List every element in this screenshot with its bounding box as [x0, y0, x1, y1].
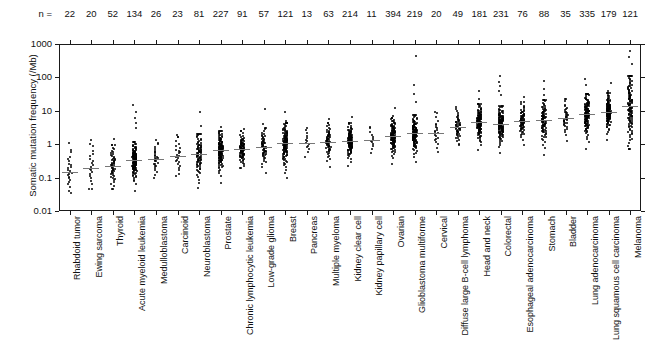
x-axis-category-label: Diffuse large B-cell lymphoma — [461, 216, 470, 335]
data-point — [480, 111, 482, 113]
median-marker — [385, 136, 401, 137]
data-point — [70, 192, 72, 194]
data-point — [610, 121, 612, 123]
x-axis-tick-top — [70, 40, 71, 44]
data-point — [285, 160, 287, 162]
data-point — [197, 176, 199, 178]
data-point — [455, 106, 457, 108]
data-point — [263, 133, 265, 135]
data-point — [68, 173, 70, 175]
data-point — [92, 150, 94, 152]
data-point — [134, 117, 136, 119]
median-marker — [83, 168, 99, 169]
data-point — [328, 130, 330, 132]
x-axis-tick — [285, 211, 286, 215]
data-point — [198, 182, 200, 184]
data-point — [627, 145, 629, 147]
data-point — [91, 183, 93, 185]
x-axis-tick — [372, 211, 373, 215]
data-point — [630, 125, 632, 127]
data-point — [394, 149, 396, 151]
data-point — [459, 135, 461, 137]
y-axis-tick-label: 1 — [47, 139, 52, 148]
data-point — [586, 136, 588, 138]
data-point — [415, 161, 417, 163]
data-point — [157, 142, 159, 144]
data-point — [564, 104, 566, 106]
data-point — [113, 148, 115, 150]
median-marker — [126, 160, 142, 161]
x-axis-tick — [436, 211, 437, 215]
data-point — [586, 138, 588, 140]
data-point — [631, 90, 633, 92]
data-point — [628, 142, 630, 144]
data-point — [437, 143, 439, 145]
median-marker — [148, 159, 164, 160]
data-point — [455, 121, 457, 123]
x-axis-category-label: Pancreas — [310, 216, 319, 254]
data-point — [455, 137, 457, 139]
n-equals-label: n = — [39, 8, 52, 19]
data-point — [393, 119, 395, 121]
data-point — [434, 111, 436, 113]
data-point — [350, 158, 352, 160]
x-axis-tick — [393, 211, 394, 215]
data-point — [394, 107, 396, 109]
y-axis-tick-right — [641, 44, 645, 45]
data-point — [175, 149, 177, 151]
data-point — [501, 133, 503, 135]
y-axis-tick-right — [641, 178, 645, 179]
data-point — [197, 138, 199, 140]
x-axis-tick-top — [522, 40, 523, 44]
y-axis-tick-label: 100 — [36, 72, 52, 81]
x-axis-category-label: Glioblastoma multiforme — [418, 216, 427, 313]
data-point — [544, 147, 546, 149]
data-point — [415, 101, 417, 103]
data-point — [609, 92, 611, 94]
data-point — [370, 152, 372, 154]
data-point — [413, 156, 415, 158]
data-point — [200, 142, 202, 144]
data-point — [369, 127, 371, 129]
data-point — [221, 135, 223, 137]
y-axis-tick-right — [641, 77, 645, 78]
x-axis-tick-top — [630, 40, 631, 44]
data-point — [69, 156, 71, 158]
data-point — [347, 126, 349, 128]
x-axis-tick-top — [178, 40, 179, 44]
data-point — [372, 143, 374, 145]
x-axis-tick — [178, 211, 179, 215]
data-point — [220, 126, 222, 128]
median-marker — [558, 118, 574, 119]
x-axis-category-label: Carcinoid — [181, 216, 190, 254]
x-axis-tick — [458, 211, 459, 215]
data-point — [564, 129, 566, 131]
data-point — [221, 133, 223, 135]
data-point — [179, 165, 181, 167]
data-point — [478, 98, 480, 100]
data-point — [371, 134, 373, 136]
data-point — [567, 114, 569, 116]
x-axis-tick-top — [544, 40, 545, 44]
data-point — [629, 50, 631, 52]
x-axis-tick — [242, 211, 243, 215]
data-point — [178, 143, 180, 145]
y-axis-tick — [55, 111, 59, 112]
data-point — [520, 103, 522, 105]
median-marker — [62, 172, 78, 173]
x-axis-tick — [307, 211, 308, 215]
data-point — [631, 99, 633, 101]
data-point — [631, 63, 633, 65]
y-axis-tick-label: 0.1 — [39, 173, 52, 182]
data-point — [627, 131, 629, 133]
data-point — [350, 125, 352, 127]
data-point — [416, 150, 418, 152]
data-point — [242, 135, 244, 137]
data-point — [541, 135, 543, 137]
x-axis-tick — [630, 211, 631, 215]
data-point — [435, 116, 437, 118]
data-point — [499, 85, 501, 87]
data-point — [329, 158, 331, 160]
data-point — [285, 169, 287, 171]
median-marker — [105, 166, 121, 167]
